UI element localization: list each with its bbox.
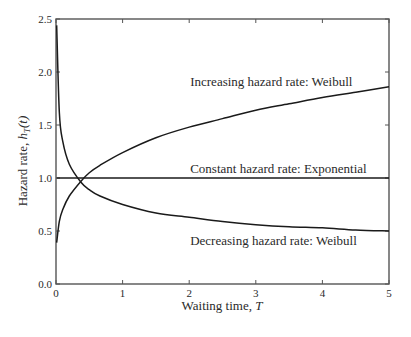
annotations: Increasing hazard rate: WeibullConstant … bbox=[190, 74, 367, 248]
y-tick-label: 1.0 bbox=[38, 172, 52, 184]
y-tick-label: 0.0 bbox=[38, 278, 52, 290]
y-tick-label: 2.0 bbox=[38, 66, 52, 78]
x-tick-label: 0 bbox=[53, 287, 59, 299]
hazard-rate-chart: 0123450.00.51.01.52.02.5 Increasing haza… bbox=[0, 0, 411, 337]
y-tick-label: 0.5 bbox=[38, 225, 52, 237]
annotation-decreasing: Decreasing hazard rate: Weibull bbox=[190, 233, 357, 248]
x-tick-label: 1 bbox=[120, 287, 126, 299]
x-tick-label: 4 bbox=[320, 287, 326, 299]
y-tick-label: 2.5 bbox=[38, 13, 52, 25]
decreasing-weibull-curve bbox=[57, 25, 389, 231]
annotation-increasing: Increasing hazard rate: Weibull bbox=[190, 74, 353, 89]
data-series bbox=[57, 25, 389, 242]
annotation-constant: Constant hazard rate: Exponential bbox=[190, 161, 367, 176]
x-axis-label: Waiting time, T bbox=[182, 298, 264, 313]
y-axis-label: Hazard rate, hT(t) bbox=[15, 116, 32, 207]
y-tick-label: 1.5 bbox=[38, 119, 52, 131]
tick-labels: 0123450.00.51.01.52.02.5 bbox=[38, 13, 392, 299]
x-tick-label: 5 bbox=[386, 287, 392, 299]
